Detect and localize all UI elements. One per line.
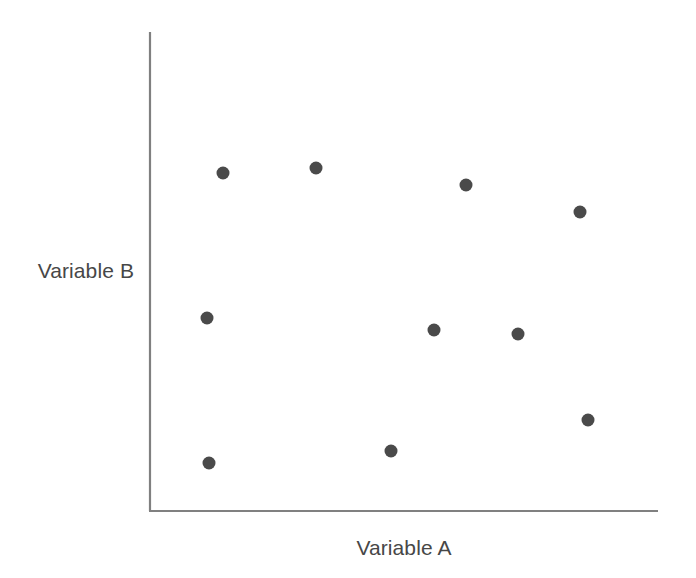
y-axis-label: Variable B	[38, 259, 134, 283]
data-point	[574, 206, 587, 219]
data-point	[201, 312, 214, 325]
plot-background	[0, 0, 696, 578]
data-point	[385, 445, 398, 458]
data-point	[217, 167, 230, 180]
data-point	[512, 328, 525, 341]
x-axis-label: Variable A	[0, 536, 696, 560]
data-point	[203, 457, 216, 470]
data-point	[310, 162, 323, 175]
data-point	[428, 324, 441, 337]
data-point	[582, 414, 595, 427]
data-point	[460, 179, 473, 192]
plot-canvas	[0, 0, 696, 578]
scatter-plot-figure: Variable B Variable A	[0, 0, 696, 578]
